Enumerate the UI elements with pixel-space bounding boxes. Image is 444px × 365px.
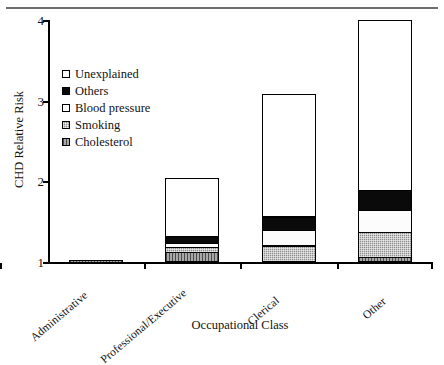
bar-segment-divider [359, 257, 411, 258]
legend-item-cholesterol[interactable]: Cholesterol [62, 134, 150, 150]
bar-segment-divider [263, 216, 315, 217]
legend-item-blood-pressure[interactable]: Blood pressure [62, 100, 150, 116]
y-tick-label-4: 4 [16, 14, 44, 27]
bar-segment-divider [166, 236, 218, 237]
bar-segment-blood-pressure [359, 210, 411, 232]
x-tick-mark-2 [0, 263, 2, 269]
x-tick-mark-4 [431, 263, 433, 269]
bar-segment-divider [166, 252, 218, 253]
chart-legend: Unexplained Others Blood pressure Smokin… [62, 66, 150, 151]
bar-segment-unexplained [359, 21, 411, 190]
legend-swatch-others-icon [62, 87, 70, 95]
legend-label-others: Others [75, 85, 108, 98]
y-tick-mark-1 [43, 262, 50, 264]
bar-segment-smoking [359, 232, 411, 257]
legend-swatch-unexplained-icon [62, 70, 70, 78]
bar-clerical[interactable] [262, 94, 316, 262]
legend-label-smoking: Smoking [75, 119, 120, 132]
bar-segment-divider [263, 230, 315, 231]
y-tick-label-1: 1 [16, 256, 44, 269]
bar-segment-unexplained [263, 95, 315, 216]
x-tick-mark-1 [144, 263, 146, 269]
y-axis-line [48, 20, 50, 263]
bar-segment-divider [263, 245, 315, 246]
bar-segment-divider [359, 232, 411, 233]
bar-professional-executive[interactable] [165, 178, 219, 262]
bar-segment-others [263, 216, 315, 230]
x-category-label-administrative: Administrative [28, 289, 90, 343]
bar-administrative[interactable] [69, 260, 123, 263]
bar-segment-divider [263, 261, 315, 262]
bar-segment-unexplained [166, 179, 218, 235]
y-tick-mark-4 [43, 20, 50, 22]
bar-segment-divider [359, 190, 411, 191]
bar-segment-divider [166, 247, 218, 248]
y-tick-mark-2 [43, 181, 50, 183]
bar-segment-cholesterol [70, 261, 122, 263]
legend-label-cholesterol: Cholesterol [75, 136, 133, 149]
legend-swatch-smoking-icon [62, 121, 70, 129]
x-category-label-other: Other [360, 295, 388, 321]
x-axis-title: Occupational Class [150, 318, 330, 333]
bar-segment-others [359, 190, 411, 210]
bar-segment-blood-pressure [263, 230, 315, 245]
legend-swatch-blood-pressure-icon [62, 104, 70, 112]
legend-label-unexplained: Unexplained [75, 68, 139, 81]
bar-segment-divider [166, 243, 218, 244]
legend-item-others[interactable]: Others [62, 83, 150, 99]
legend-swatch-cholesterol-icon [62, 138, 70, 146]
legend-label-blood-pressure: Blood pressure [75, 102, 150, 115]
x-tick-mark-2b [240, 263, 242, 269]
bar-segment-divider [359, 210, 411, 211]
bar-other[interactable] [358, 20, 412, 262]
y-axis-title: CHD Relative Risk [12, 60, 27, 220]
legend-item-smoking[interactable]: Smoking [62, 117, 150, 133]
y-tick-mark-3 [43, 101, 50, 103]
bar-segment-cholesterol [166, 252, 218, 262]
bar-segment-smoking [263, 245, 315, 260]
x-tick-mark-3 [337, 263, 339, 269]
legend-item-unexplained[interactable]: Unexplained [62, 66, 150, 82]
